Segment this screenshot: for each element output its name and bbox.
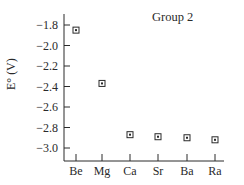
y-axis-label-text: E° (V) xyxy=(4,58,18,90)
marker-dot xyxy=(186,137,188,139)
y-tick-label: −1.8 xyxy=(36,18,58,32)
y-tick-label: −2.8 xyxy=(36,121,58,135)
chart-title: Group 2 xyxy=(152,10,193,25)
y-tick-label: −3.0 xyxy=(36,141,58,155)
y-axis-ticks: −1.8−2.0−2.2−2.4−2.6−2.8−3.0 xyxy=(36,18,70,155)
y-tick-label: −2.6 xyxy=(36,100,58,114)
x-tick-label: Sr xyxy=(153,164,164,178)
y-tick-label: −2.2 xyxy=(36,59,58,73)
marker-dot xyxy=(129,134,131,136)
x-tick-label: Ca xyxy=(123,164,137,178)
marker-dot xyxy=(101,82,103,84)
data-point xyxy=(184,135,190,141)
y-tick-label: −2.0 xyxy=(36,39,58,53)
y-tick-label: −2.4 xyxy=(36,80,58,94)
x-tick-label: Mg xyxy=(94,164,111,178)
marker-dot xyxy=(214,139,216,141)
x-tick-label: Ra xyxy=(208,164,222,178)
x-tick-label: Ba xyxy=(180,164,194,178)
data-point xyxy=(127,132,133,138)
chart: −1.8−2.0−2.2−2.4−2.6−2.8−3.0 BeMgCaSrBaR… xyxy=(0,0,244,185)
x-tick-label: Be xyxy=(69,164,82,178)
data-point xyxy=(155,134,161,140)
marker-dot xyxy=(75,29,77,31)
data-point xyxy=(212,137,218,143)
marker-dot xyxy=(157,136,159,138)
x-axis-ticks: BeMgCaSrBaRa xyxy=(69,154,222,178)
axes xyxy=(64,14,224,161)
data-point xyxy=(99,80,105,86)
data-points xyxy=(73,27,218,143)
data-point xyxy=(73,27,79,33)
y-axis-label: E° (V) xyxy=(4,58,19,90)
